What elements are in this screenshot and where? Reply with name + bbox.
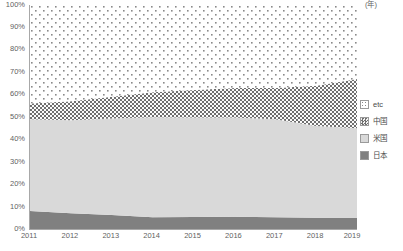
plot-area [29,5,357,230]
y-axis-tick: 70% [10,68,25,76]
y-axis-tick: 80% [10,45,25,53]
legend-swatch-japan [360,151,369,160]
x-axis-tick: 2012 [62,231,79,241]
legend-item-japan: 日本 [360,147,403,164]
legend-label-etc: etc [373,100,383,109]
legend-item-china: 中国 [360,113,403,130]
y-axis-tick: 100% [6,1,25,9]
x-axis-tick: 2019 [344,231,361,241]
x-axis-tick: 2014 [143,231,160,241]
x-axis-tick: 2017 [266,231,283,241]
legend-item-etc: etc [360,96,403,113]
x-axis-tick: 2015 [184,231,201,241]
x-axis: 2011 2012 2013 2014 2015 2016 2017 2018 … [29,231,356,247]
legend-item-usa: 米国 [360,130,403,147]
area-band-usa [30,117,357,218]
x-axis-tick: 2016 [225,231,242,241]
legend-label-usa: 米国 [373,134,387,143]
stacked-area-chart: 100% 90% 80% 70% 60% 50% 40% 30% 20% 10%… [0,0,403,251]
y-axis-tick: 20% [10,180,25,188]
y-axis-tick: 50% [10,113,25,121]
x-axis-tick: 2018 [307,231,324,241]
x-axis-tick: 2011 [21,231,37,241]
area-series-svg [30,5,357,229]
legend: etc 中国 米国 日本 [360,96,403,164]
y-axis-tick: 40% [10,135,25,143]
legend-label-china: 中国 [373,117,387,126]
y-axis-tick: 30% [10,158,25,166]
x-axis-tick: 2013 [102,231,119,241]
legend-swatch-usa [360,134,369,143]
y-axis-tick: 10% [10,203,25,211]
y-axis-tick: 90% [10,23,25,31]
legend-label-japan: 日本 [373,151,387,160]
y-axis-tick: 60% [10,90,25,98]
legend-swatch-etc [360,100,369,109]
x-axis-unit-label: (年) [365,0,377,10]
y-axis: 100% 90% 80% 70% 60% 50% 40% 30% 20% 10%… [0,0,28,251]
legend-swatch-china [360,117,369,126]
